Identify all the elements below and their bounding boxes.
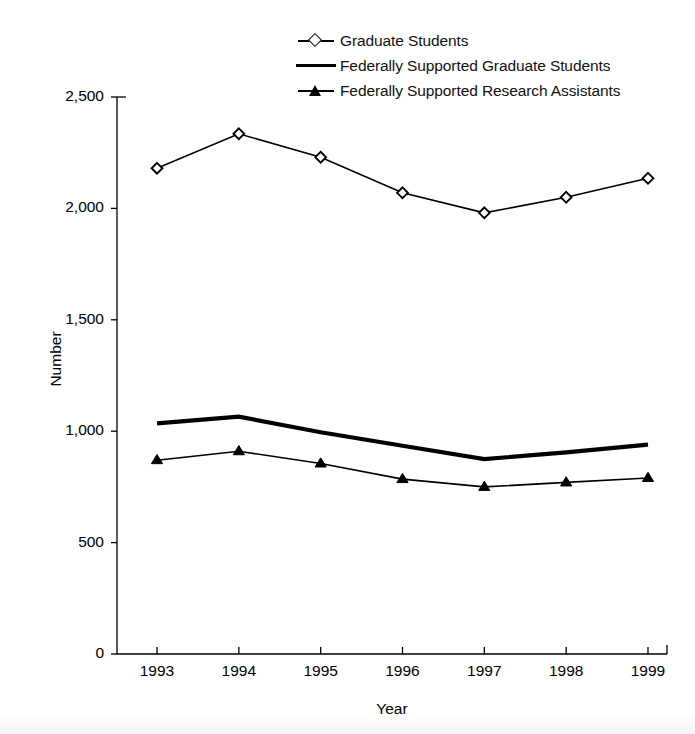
plot-area (0, 0, 695, 734)
data-point-marker (479, 207, 490, 218)
data-point-marker (315, 152, 326, 163)
data-point-marker (233, 128, 244, 139)
data-point-marker (642, 472, 653, 481)
chart-figure: Graduate Students Federally Supported Gr… (0, 0, 695, 734)
series-1 (152, 128, 654, 218)
data-point-marker (561, 477, 572, 486)
data-point-marker (233, 446, 244, 455)
data-point-marker (643, 173, 654, 184)
data-point-marker (152, 163, 163, 174)
series-line (157, 134, 648, 213)
data-point-marker (561, 192, 572, 203)
data-point-marker (397, 187, 408, 198)
